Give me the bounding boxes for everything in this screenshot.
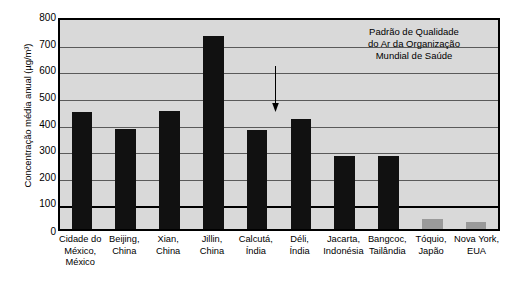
annotation-line: Padrão de Qualidade <box>334 26 494 38</box>
x-axis-tick-label-line: Tailândia <box>366 246 408 258</box>
x-axis-tick-label-line: Bangcoc, <box>366 234 408 246</box>
x-axis-tick-label-line: Calcutá, <box>235 234 277 246</box>
bar-slot <box>148 20 192 229</box>
y-axis-tick-200: 200 <box>24 173 56 183</box>
x-axis-tick-label: Cidade doMéxico,México <box>58 234 102 269</box>
bar-chart: Concentração média anual (µg/m³) 8007006… <box>0 0 511 287</box>
bar <box>334 156 355 229</box>
x-axis-tick-label-line: Xian, <box>147 234 189 246</box>
bar <box>159 111 180 229</box>
x-axis-tick-label-line: México, <box>59 246 101 258</box>
x-axis-tick-label-line: Japão <box>410 246 452 258</box>
bar <box>203 36 224 229</box>
bar-slot <box>191 20 235 229</box>
x-axis-tick-label-line: México <box>59 257 101 269</box>
annotation-line: Mundial de Saúde <box>334 50 494 62</box>
x-axis-tick-label: Calcutá,Índia <box>234 234 278 269</box>
x-axis-tick-label-line: Tóquio, <box>410 234 452 246</box>
y-axis-tick-400: 400 <box>24 120 56 130</box>
x-axis-tick-label-line: China <box>147 246 189 258</box>
y-axis-tick-600: 600 <box>24 66 56 76</box>
x-axis-tick-label-line: Déli, <box>279 234 321 246</box>
x-axis-tick-label: Nova York,EUA <box>453 234 500 269</box>
x-axis-tick-label-line: China <box>191 246 233 258</box>
y-axis-tick-700: 700 <box>24 40 56 50</box>
x-axis-tick-label-line: China <box>103 246 145 258</box>
x-axis-tick-labels: Cidade doMéxico,MéxicoBeijing,ChinaXian,… <box>58 234 500 269</box>
y-axis-tick-300: 300 <box>24 146 56 156</box>
x-axis-tick-label-line: Cidade do <box>59 234 101 246</box>
bar-slot <box>104 20 148 229</box>
x-axis-tick-label-line: Nova York, <box>454 234 499 246</box>
x-axis-tick-label-line: Índia <box>235 246 277 258</box>
bar <box>115 129 136 229</box>
bar <box>72 112 93 229</box>
bar <box>422 219 443 229</box>
plot-area: Padrão de Qualidadedo Ar da OrganizaçãoM… <box>58 18 500 231</box>
bar <box>291 119 312 229</box>
x-axis-tick-label: Xian,China <box>146 234 190 269</box>
bar <box>466 222 487 229</box>
bar-slot <box>279 20 323 229</box>
bar <box>378 156 399 229</box>
annotation-line: do Ar da Organização <box>334 38 494 50</box>
y-axis-tick-labels: 800700600500400300200100 <box>24 18 56 231</box>
x-axis-tick-label-line: Jillin, <box>191 234 233 246</box>
x-axis-tick-label-line: Indonésia <box>323 246 365 258</box>
bar <box>247 130 268 229</box>
x-axis-tick-label: Jillin,China <box>190 234 234 269</box>
x-axis-tick-label: Tóquio,Japão <box>409 234 453 269</box>
y-axis-tick-500: 500 <box>24 93 56 103</box>
x-axis-tick-label-line: Jacarta, <box>323 234 365 246</box>
x-axis-tick-label-line: EUA <box>454 246 499 258</box>
y-axis-tick-100: 100 <box>24 199 56 209</box>
y-axis-tick-zero: 0 <box>24 226 56 237</box>
x-axis-tick-label: Jacarta,Indonésia <box>322 234 366 269</box>
x-axis-tick-label: Bangcoc,Tailândia <box>365 234 409 269</box>
y-axis-tick-800: 800 <box>24 13 56 23</box>
annotation-arrow-icon <box>271 66 280 112</box>
x-axis-tick-label: Beijing,China <box>102 234 146 269</box>
x-axis-tick-label: Déli,Índia <box>278 234 322 269</box>
annotation-who-standard: Padrão de Qualidadedo Ar da OrganizaçãoM… <box>334 26 494 62</box>
bar-slot <box>235 20 279 229</box>
bar-slot <box>60 20 104 229</box>
x-axis-tick-label-line: Índia <box>279 246 321 258</box>
x-axis-tick-label-line: Beijing, <box>103 234 145 246</box>
